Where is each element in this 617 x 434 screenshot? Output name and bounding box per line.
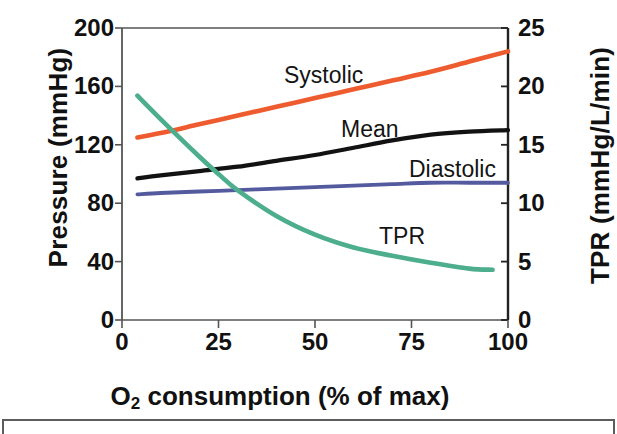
series-label-mean: Mean xyxy=(341,116,399,143)
series-label-tpr: TPR xyxy=(379,223,425,250)
chart-figure: Pressure (mmHg) TPR (mmHg/L/min) O2 cons… xyxy=(0,0,617,434)
bottom-border-rule xyxy=(2,419,615,421)
series-line-diastolic xyxy=(137,183,508,195)
series-label-systolic: Systolic xyxy=(284,62,363,89)
bottom-border-right-tick xyxy=(613,419,615,434)
series-label-diastolic: Diastolic xyxy=(409,156,496,183)
bottom-border-left-tick xyxy=(2,419,4,434)
